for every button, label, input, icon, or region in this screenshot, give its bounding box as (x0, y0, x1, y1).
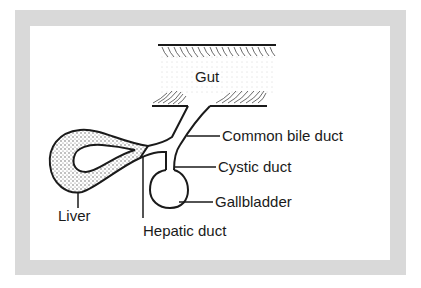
label-gut: Gut (195, 69, 219, 84)
liver-shape (50, 130, 148, 193)
label-gallbladder: Gallbladder (215, 194, 292, 209)
duct-system (140, 106, 210, 208)
label-cystic-duct: Cystic duct (218, 159, 291, 174)
biliary-diagram (0, 0, 421, 288)
label-liver: Liver (58, 208, 91, 223)
label-hepatic-duct: Hepatic duct (143, 223, 226, 238)
label-common-bile-duct: Common bile duct (222, 128, 343, 143)
